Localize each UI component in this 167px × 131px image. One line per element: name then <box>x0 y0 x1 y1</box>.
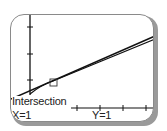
graph-line-y1 <box>11 36 154 99</box>
x-readout: X=1 <box>12 110 31 121</box>
mode-label: Intersection <box>12 96 67 107</box>
graph-line-y2 <box>30 39 154 94</box>
y-readout: Y=1 <box>92 110 111 121</box>
calculator-screen: Intersection X=1 Y=1 <box>10 14 154 122</box>
